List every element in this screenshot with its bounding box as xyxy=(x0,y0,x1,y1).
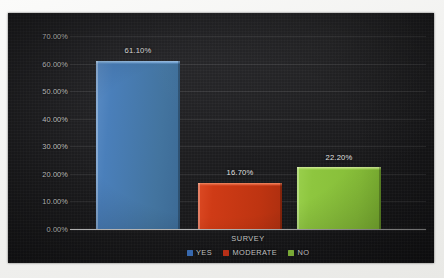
gridline-70 xyxy=(70,36,426,37)
bar-yes-left-highlight xyxy=(96,61,98,229)
y-tick-label-0: 0.00% xyxy=(12,224,68,233)
legend-swatch-no-icon xyxy=(288,250,294,256)
y-tick-label-70: 70.00% xyxy=(12,32,68,41)
legend-swatch-moderate-icon xyxy=(223,250,229,256)
bar-no-face xyxy=(297,167,381,228)
bar-yes-top-highlight xyxy=(96,61,180,64)
bar-yes[interactable] xyxy=(96,61,180,229)
y-tick-label-30: 30.00% xyxy=(12,142,68,151)
y-tick-label-40: 40.00% xyxy=(12,114,68,123)
y-tick-label-20: 20.00% xyxy=(12,169,68,178)
bar-yes-right-shadow xyxy=(178,61,180,229)
x-axis-line xyxy=(70,229,426,231)
chart-legend: YES MODERATE NO xyxy=(70,248,426,257)
y-tick-label-50: 50.00% xyxy=(12,87,68,96)
chart-screenshot: 70.00% 60.00% 50.00% 40.00% 30.00% 20.00… xyxy=(0,0,444,278)
data-label-no: 22.20% xyxy=(326,153,353,162)
plot-area: 70.00% 60.00% 50.00% 40.00% 30.00% 20.00… xyxy=(8,13,434,263)
bar-no-left-highlight xyxy=(297,167,299,228)
y-tick-label-10: 10.00% xyxy=(12,197,68,206)
legend-label-moderate: MODERATE xyxy=(233,248,278,257)
legend-swatch-yes-icon xyxy=(187,250,193,256)
bar-moderate[interactable] xyxy=(198,183,282,229)
legend-label-yes: YES xyxy=(196,248,212,257)
legend-label-no: NO xyxy=(298,248,310,257)
x-axis-title: SURVEY xyxy=(70,234,426,243)
data-label-moderate: 16.70% xyxy=(227,168,254,177)
bar-no-right-shadow xyxy=(379,167,381,228)
legend-item-yes[interactable]: YES xyxy=(187,248,213,257)
bar-no[interactable] xyxy=(297,167,381,228)
bar-moderate-top-highlight xyxy=(198,183,282,186)
bar-moderate-left-highlight xyxy=(198,183,200,229)
bar-moderate-right-shadow xyxy=(280,183,282,229)
data-label-yes: 61.10% xyxy=(125,46,152,55)
y-axis-tick-labels: 70.00% 60.00% 50.00% 40.00% 30.00% 20.00… xyxy=(12,13,68,263)
bar-moderate-face xyxy=(198,183,282,229)
bar-no-top-highlight xyxy=(297,167,381,170)
legend-item-no[interactable]: NO xyxy=(288,248,309,257)
bar-yes-face xyxy=(96,61,180,229)
chart-panel: 70.00% 60.00% 50.00% 40.00% 30.00% 20.00… xyxy=(8,13,434,263)
legend-item-moderate[interactable]: MODERATE xyxy=(223,248,277,257)
y-tick-label-60: 60.00% xyxy=(12,59,68,68)
